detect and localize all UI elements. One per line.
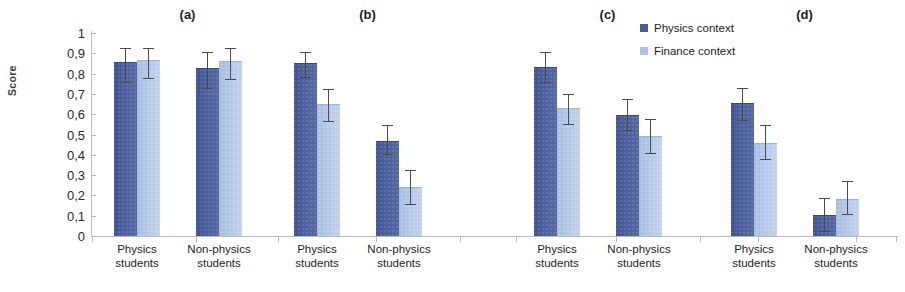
x-axis-tick-mark <box>376 237 377 242</box>
error-bar-cap <box>540 52 551 53</box>
legend-swatch-icon <box>640 24 648 32</box>
error-bar <box>148 48 149 78</box>
x-axis-tick-mark <box>278 237 279 242</box>
error-bar-cap <box>225 79 236 80</box>
y-axis-tick-label: 0,3 <box>67 169 85 182</box>
error-bar <box>328 89 329 122</box>
x-axis-tick-mark <box>616 237 617 242</box>
error-bar <box>207 52 208 89</box>
bar-finance-context <box>317 104 340 236</box>
error-bar-cap <box>842 214 853 215</box>
legend-swatch-icon <box>640 47 648 55</box>
bar-physics-context <box>114 62 137 236</box>
error-bar-cap <box>819 231 830 232</box>
y-axis-tick-label: 0,8 <box>67 68 85 81</box>
x-axis-tick-mark <box>460 237 461 242</box>
error-bar-cap <box>645 153 656 154</box>
error-bar <box>765 125 766 160</box>
panel-title: (d) <box>717 7 892 22</box>
error-bar-cap <box>645 119 656 120</box>
error-bar-cap <box>760 125 771 126</box>
error-bar-cap <box>202 88 213 89</box>
legend-item-label: Finance context <box>654 45 735 57</box>
error-bar-cap <box>819 198 830 199</box>
legend-item-finance-context: Finance context <box>640 45 790 57</box>
x-axis-group-label: Non-physicsstudents <box>797 242 875 271</box>
x-axis-tick-mark <box>856 237 857 242</box>
figure-bar-chart-panels: Score 10,90,80,70,60,50,40,30,20,10 (a)P… <box>0 0 905 292</box>
bar-finance-context <box>639 136 662 236</box>
y-axis-tick-label: 0,2 <box>67 189 85 202</box>
bar-group: Non-physicsstudents <box>813 33 859 236</box>
error-bar-cap <box>622 99 633 100</box>
error-bar <box>568 94 569 125</box>
error-bar <box>824 198 825 231</box>
error-bar <box>387 125 388 154</box>
x-axis-tick-mark <box>516 237 517 242</box>
y-axis-tick-label: 0,7 <box>67 88 85 101</box>
error-bar-cap <box>842 181 853 182</box>
legend-item-label: Physics context <box>654 22 734 34</box>
x-axis-tick-mark <box>92 237 93 242</box>
error-bar-cap <box>405 204 416 205</box>
error-bar-cap <box>120 48 131 49</box>
error-bar <box>305 52 306 77</box>
legend-item-physics-context: Physics context <box>640 22 790 34</box>
bar-finance-context <box>137 60 160 236</box>
bar-finance-context <box>557 108 580 236</box>
error-bar-cap <box>323 121 334 122</box>
error-bar-cap <box>120 82 131 83</box>
y-axis-title: Score <box>6 16 18 96</box>
bar-physics-context <box>534 67 557 236</box>
y-axis-tick-label: 0,9 <box>67 47 85 60</box>
error-bar-cap <box>382 154 393 155</box>
bar-finance-context <box>219 61 242 236</box>
x-axis-tick-mark <box>196 237 197 242</box>
x-axis-baseline <box>92 236 898 237</box>
bar-finance-context <box>836 199 859 236</box>
bar-physics-context <box>731 103 754 236</box>
x-axis-tick-mark <box>758 237 759 242</box>
error-bar <box>847 181 848 214</box>
error-bar-cap <box>760 159 771 160</box>
error-bar-cap <box>563 94 574 95</box>
x-axis-group-label: Non-physicsstudents <box>600 242 678 271</box>
error-bar-cap <box>405 170 416 171</box>
error-bar-cap <box>323 89 334 90</box>
error-bar-cap <box>622 130 633 131</box>
x-axis-group-label: Non-physicsstudents <box>180 242 258 271</box>
panel-title: (a) <box>100 7 275 22</box>
bar-group: Physicsstudents <box>534 33 580 236</box>
error-bar <box>410 170 411 205</box>
error-bar-cap <box>300 77 311 78</box>
bar-physics-context <box>813 215 836 236</box>
error-bar-cap <box>225 48 236 49</box>
x-axis-group-label: Physicsstudents <box>278 242 356 271</box>
bar-group: Physicsstudents <box>114 33 160 236</box>
bar-group: Physicsstudents <box>294 33 340 236</box>
y-axis-tick-label: 0,4 <box>67 149 85 162</box>
x-axis-group-label: Physicsstudents <box>98 242 176 271</box>
y-axis-tick-label: 0,1 <box>67 210 85 223</box>
error-bar-cap <box>382 125 393 126</box>
bar-group: Non-physicsstudents <box>196 33 242 236</box>
panel-title: (c) <box>520 7 695 22</box>
panel-title: (b) <box>280 7 455 22</box>
error-bar <box>742 88 743 121</box>
error-bar <box>230 48 231 79</box>
chart-panel: (a)PhysicsstudentsNon-physicsstudents <box>100 33 275 236</box>
x-axis-group-label: Physicsstudents <box>518 242 596 271</box>
x-axis-tick-mark <box>896 237 897 242</box>
bar-physics-context <box>196 68 219 236</box>
bar-finance-context <box>754 143 777 236</box>
error-bar-cap <box>143 78 154 79</box>
y-axis-ticks: 10,90,80,70,60,50,40,30,20,10 <box>55 26 91 242</box>
error-bar <box>627 99 628 131</box>
error-bar <box>545 52 546 82</box>
error-bar-cap <box>300 52 311 53</box>
error-bar-cap <box>563 124 574 125</box>
error-bar <box>125 48 126 83</box>
error-bar-cap <box>737 120 748 121</box>
x-axis-tick-mark <box>700 237 701 242</box>
bar-physics-context <box>376 141 399 236</box>
